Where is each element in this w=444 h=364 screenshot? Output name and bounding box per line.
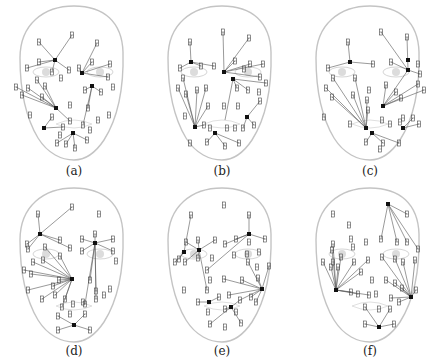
hub-node: [401, 126, 405, 130]
graph-edge: [44, 127, 63, 128]
graph-edge: [350, 62, 373, 64]
hub-node: [71, 131, 75, 135]
hub-node: [377, 325, 381, 329]
mouth-outline: [204, 120, 240, 128]
graph-edge: [73, 133, 87, 140]
panel-f: (f): [296, 182, 444, 364]
figure-face-graphs: (a) (b) (c) (d) (e) (f): [0, 0, 444, 364]
hub-node: [189, 60, 193, 64]
graph-edge: [372, 133, 399, 143]
face-graph-d: [0, 182, 148, 364]
hub-node: [213, 131, 217, 135]
mouth-outline: [352, 120, 388, 128]
hub-node: [364, 126, 368, 130]
graph-edge: [95, 239, 113, 243]
hub-node: [38, 232, 42, 236]
iris-shape: [42, 68, 50, 76]
hub-node: [90, 84, 94, 88]
iris-shape: [392, 68, 400, 76]
graph-edge: [383, 90, 424, 106]
graph-edge: [229, 289, 262, 295]
graph-edge: [28, 279, 72, 290]
hub-node: [406, 58, 410, 62]
panel-e: (e): [148, 182, 296, 364]
hub-node: [381, 104, 385, 108]
face-graph-a: [0, 0, 148, 182]
graph-edge: [45, 247, 72, 279]
hub-node: [247, 232, 251, 236]
hub-node: [370, 131, 374, 135]
hub-node: [409, 295, 413, 299]
hub-node: [231, 77, 235, 81]
hub-node: [229, 305, 233, 309]
graph-edge: [16, 87, 56, 108]
graph-edge: [336, 272, 361, 290]
graph-edge: [55, 60, 69, 70]
hub-node: [193, 125, 197, 129]
graph-edge: [240, 289, 262, 300]
graph-edge: [58, 325, 74, 330]
hub-node: [386, 202, 390, 206]
caption-a: (a): [0, 164, 148, 178]
graph-edge: [40, 234, 60, 240]
graph-edge: [247, 101, 260, 117]
graph-edge: [248, 262, 262, 289]
graph-edge: [27, 60, 55, 68]
hub-node: [348, 60, 352, 64]
graph-edge: [333, 78, 366, 128]
caption-e: (e): [148, 344, 296, 358]
hub-node: [54, 106, 58, 110]
graph-edge: [40, 207, 72, 234]
graph-edge: [184, 215, 191, 252]
face-outline: [20, 188, 123, 342]
graph-edge: [85, 243, 95, 304]
iris-shape: [96, 68, 104, 76]
panel-d: (d): [0, 182, 148, 364]
graph-edge: [355, 78, 366, 128]
face-graph-e: [148, 182, 296, 364]
graph-edge: [22, 95, 56, 108]
hub-node: [53, 58, 57, 62]
graph-edge: [42, 279, 72, 299]
graph-edge: [225, 79, 233, 120]
hub-node: [70, 277, 74, 281]
face-graph-b: [148, 0, 296, 182]
hub-node: [207, 300, 211, 304]
face-outline: [168, 6, 271, 160]
iris-shape: [338, 68, 346, 76]
hub-node: [334, 288, 338, 292]
graph-edge: [53, 279, 72, 286]
hub-node: [72, 323, 76, 327]
graph-edge: [381, 204, 388, 239]
graph-edge: [186, 94, 195, 127]
graph-edge: [381, 32, 408, 70]
graph-edge: [332, 97, 366, 128]
hub-node: [93, 241, 97, 245]
graph-edge: [391, 297, 411, 298]
panel-c: (c): [296, 0, 444, 182]
face-graph-c: [296, 0, 444, 182]
graph-edge: [379, 324, 394, 327]
graph-edge: [40, 234, 70, 248]
graph-edge: [388, 204, 407, 214]
caption-b: (b): [148, 164, 296, 178]
hub-node: [42, 126, 46, 130]
caption-f: (f): [296, 344, 444, 358]
graph-edge: [95, 243, 113, 251]
graph-edge: [83, 86, 92, 125]
graph-edge: [199, 240, 215, 250]
hub-node: [222, 70, 226, 74]
hub-node: [245, 115, 249, 119]
graph-edge: [56, 108, 70, 121]
graph-edge: [60, 256, 72, 279]
caption-c: (c): [296, 164, 444, 178]
iris-shape: [96, 250, 104, 258]
hub-node: [182, 250, 186, 254]
graph-edge: [407, 37, 408, 70]
graph-edge: [195, 106, 208, 127]
graph-edge: [58, 316, 74, 325]
graph-edge: [388, 204, 397, 242]
graph-edge: [55, 35, 72, 60]
hub-node: [80, 71, 84, 75]
graph-edge: [42, 97, 56, 108]
